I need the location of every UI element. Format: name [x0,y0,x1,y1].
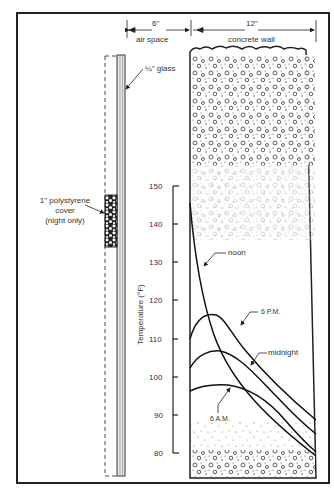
tick-140: 140 [149,220,162,229]
wall-width: 12" [246,19,258,28]
axis-label: Temperature (°F) [136,275,145,355]
tick-90: 90 [154,411,163,420]
trombe-wall-diagram [0,0,334,493]
polystyrene-cover-block [105,195,117,247]
tick-110: 110 [149,335,162,344]
label-noon: noon [228,248,246,257]
cover-callout-line3: (night only) [30,216,100,225]
temperature-axis [173,186,179,453]
label-midnight: midnight [268,348,298,357]
glass-callout: ¼" glass [145,64,175,73]
tick-150: 150 [149,182,162,191]
cover-callout-line2: cover [30,206,100,215]
label-6am: 6 A.M. [210,414,230,423]
glass-pane [117,55,125,476]
air-space-label: air space [136,35,168,44]
wall-label: concrete wall [228,35,275,44]
polystyrene-cover-outline [105,56,117,476]
air-space-width: 6" [152,19,159,28]
label-6pm: 6 P.M. [261,307,280,316]
tick-120: 120 [149,296,162,305]
tick-130: 130 [149,258,162,267]
tick-80: 80 [154,449,163,458]
cover-callout-line1: 1" polystyrene [30,196,100,205]
glass-callout-line [126,69,143,89]
tick-100: 100 [149,373,162,382]
concrete-wall [190,46,316,478]
